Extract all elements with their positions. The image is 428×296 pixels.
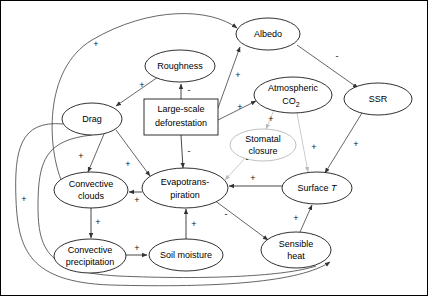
- node-albedo[interactable]: Albedo: [236, 18, 300, 50]
- node-evapo-label-line2: piration: [170, 190, 200, 200]
- sign-convclouds-precip: +: [95, 217, 100, 227]
- node-stomatal-closure[interactable]: Stomatal closure: [230, 129, 296, 161]
- sign-roughness-drag: +: [139, 80, 144, 90]
- node-convclouds-label-line2: clouds: [78, 191, 105, 201]
- sign-stomatal-evapo: -: [246, 154, 249, 164]
- edge-drag-evapo: [116, 130, 150, 176]
- sign-ssr-surfacet: +: [353, 139, 358, 149]
- edge-sensible-surfacet: [300, 205, 312, 232]
- sign-drag-convclouds: +: [78, 151, 83, 161]
- sign-precip-soil: +: [134, 243, 139, 253]
- node-convective-precipitation[interactable]: Convective precipitation: [54, 239, 126, 273]
- node-evapo-label-line1: Evapotrans-: [161, 177, 210, 187]
- sign-convclouds-albedo: +: [93, 39, 98, 49]
- node-sensible-label-line2: heat: [287, 251, 305, 261]
- node-drag-label: Drag: [82, 114, 102, 124]
- sign-left-loop: +: [21, 194, 26, 204]
- node-convprecip-label-line1: Convective: [68, 245, 113, 255]
- sign-defo-roughness: -: [188, 85, 191, 95]
- node-ssr[interactable]: SSR: [344, 83, 412, 115]
- node-albedo-label: Albedo: [254, 29, 282, 39]
- node-deforestation-label-line2: deforestation: [155, 118, 207, 128]
- sign-sensible-surfacet: +: [293, 213, 298, 223]
- sign-defo-evapo: -: [188, 146, 191, 156]
- sign-drag-evapo: +: [125, 159, 130, 169]
- sign-soil-evapo: +: [191, 219, 196, 229]
- node-convprecip-label-line2: precipitation: [66, 257, 115, 267]
- sign-defo-co2: +: [237, 102, 242, 112]
- edge-drag-convclouds: [88, 134, 104, 172]
- node-evapotranspiration[interactable]: Evapotrans- piration: [142, 168, 228, 208]
- node-roughness-label: Roughness: [157, 61, 203, 71]
- edge-co2-surfacet: [297, 113, 308, 172]
- node-convclouds-label-line1: Convective: [69, 179, 114, 189]
- sign-surfacet-evapo: +: [250, 173, 255, 183]
- node-roughness[interactable]: Roughness: [145, 50, 215, 82]
- node-surfacet-label: Surface T: [297, 183, 338, 193]
- causal-loop-diagram: Roughness Drag Albedo Atmospheric CO2 SS…: [0, 0, 428, 296]
- sign-defo-albedo: +: [235, 70, 240, 80]
- node-deforestation-label-line1: Large-scale: [157, 104, 204, 114]
- sign-co2-stomatal: +: [268, 114, 273, 124]
- node-ssr-label: SSR: [369, 94, 388, 104]
- edge-defo-evapo: [181, 135, 183, 168]
- node-sensible-heat[interactable]: Sensible heat: [261, 232, 331, 268]
- node-drag[interactable]: Drag: [62, 103, 122, 135]
- node-sensible-label-line1: Sensible: [279, 239, 314, 249]
- node-soil-moisture[interactable]: Soil moisture: [149, 239, 223, 271]
- diagram-canvas: Roughness Drag Albedo Atmospheric CO2 SS…: [0, 0, 428, 296]
- node-convective-clouds[interactable]: Convective clouds: [54, 172, 128, 208]
- sign-evapo-sensible: -: [225, 209, 228, 219]
- sign-albedo-ssr: -: [336, 51, 339, 61]
- edge-evapo-sensible: [214, 200, 268, 240]
- node-stomatal-label-line2: closure: [248, 146, 277, 156]
- sign-co2-surfacet: +: [311, 142, 316, 152]
- node-soilmoisture-label: Soil moisture: [160, 250, 212, 260]
- node-stomatal-label-line1: Stomatal: [245, 134, 281, 144]
- node-large-scale-deforestation[interactable]: Large-scale deforestation: [144, 99, 218, 135]
- node-surface-temperature[interactable]: Surface T: [282, 172, 352, 204]
- node-co2-label-line1: Atmospheric: [268, 83, 319, 93]
- node-atmospheric-co2[interactable]: Atmospheric CO2: [254, 77, 332, 113]
- sign-evapo-convclouds: +: [134, 195, 139, 205]
